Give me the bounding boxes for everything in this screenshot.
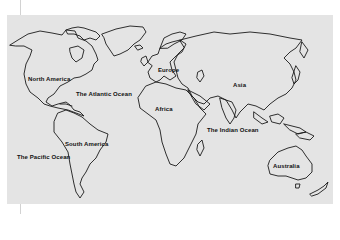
tasmania-outline xyxy=(296,184,300,188)
british-isles-outline xyxy=(141,56,148,66)
caspian-sea-outline xyxy=(197,70,204,82)
iceland-outline xyxy=(135,45,143,50)
asia-outline xyxy=(174,32,302,118)
caribbean-outline xyxy=(60,104,72,106)
new-zealand-outline xyxy=(310,182,328,196)
label-south-america: South America xyxy=(65,141,108,147)
new-guinea-outline xyxy=(296,132,314,140)
europe-outline xyxy=(148,40,186,82)
kamchatka-outline xyxy=(300,42,308,58)
madagascar-outline xyxy=(197,140,204,156)
africa-outline xyxy=(138,82,206,166)
label-africa: Africa xyxy=(155,106,173,112)
hudson-bay-outline xyxy=(70,46,84,62)
label-pacific-ocean: The Pacific Ocean xyxy=(17,154,70,160)
label-indian-ocean: The Indian Ocean xyxy=(207,127,259,133)
north-america-outline xyxy=(10,30,98,116)
label-north-america: North America xyxy=(28,76,70,82)
india-outline xyxy=(220,98,236,124)
label-atlantic-ocean: The Atlantic Ocean xyxy=(76,91,132,97)
greenland-outline xyxy=(102,26,146,56)
japan-outline xyxy=(292,66,300,84)
arctic-islands-outline xyxy=(66,27,100,40)
label-asia: Asia xyxy=(233,82,246,88)
label-australia: Australia xyxy=(273,163,300,169)
southeast-asia-islands-outline xyxy=(254,112,306,134)
label-europe: Europe xyxy=(158,67,179,73)
